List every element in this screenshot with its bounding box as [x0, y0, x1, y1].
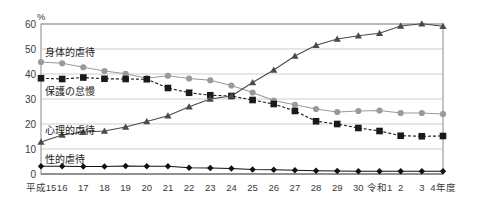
- y-axis-tick-label: 0: [30, 169, 36, 180]
- data-point: [228, 165, 234, 171]
- data-point: [59, 76, 66, 83]
- series-label: 身体的虐待: [45, 46, 95, 58]
- x-axis-tick-label: 21: [163, 182, 174, 193]
- data-point: [249, 97, 256, 104]
- series-label: 保護の怠慢: [45, 85, 95, 97]
- data-point: [80, 74, 87, 81]
- x-axis-tick-label: 16: [57, 182, 68, 193]
- data-point: [271, 167, 277, 173]
- data-point: [228, 82, 234, 88]
- y-axis-tick-label: 30: [25, 94, 37, 105]
- data-point: [292, 102, 298, 108]
- data-point: [38, 163, 44, 169]
- x-axis-tick-label: 4年度: [430, 182, 455, 193]
- data-point: [143, 76, 150, 83]
- data-point: [207, 77, 213, 83]
- x-axis-tick-label: 平成15: [26, 182, 57, 193]
- series-label: 性的虐待: [45, 153, 85, 165]
- x-axis-tick-label: 24: [226, 182, 237, 193]
- x-axis-tick-label: 20: [142, 182, 153, 193]
- data-point: [165, 73, 171, 79]
- data-point: [440, 133, 447, 140]
- data-point: [270, 66, 277, 72]
- data-point: [376, 168, 382, 174]
- data-point: [101, 163, 107, 169]
- x-axis-tick-label: 29: [332, 182, 343, 193]
- series-line: [41, 78, 443, 137]
- y-axis-tick-labels: 0102030405060: [25, 19, 37, 180]
- data-point: [398, 110, 404, 116]
- data-point: [249, 166, 255, 172]
- data-point: [249, 89, 255, 95]
- data-point: [419, 110, 425, 116]
- data-point: [440, 168, 446, 174]
- x-axis-tick-label: 28: [311, 182, 322, 193]
- series-triangle: [37, 20, 446, 145]
- series-line: [41, 62, 443, 114]
- data-point: [101, 68, 107, 74]
- x-axis-tick-label: 25: [247, 182, 258, 193]
- data-point: [80, 64, 86, 70]
- data-point: [164, 112, 171, 118]
- data-point: [292, 108, 299, 115]
- data-point: [334, 109, 340, 115]
- x-axis-tick-labels: 平成15161718192021222324252627282930令和1234…: [26, 182, 456, 193]
- x-axis-tick-label: 27: [290, 182, 301, 193]
- data-point: [334, 168, 340, 174]
- y-axis-tick-label: 40: [25, 69, 37, 80]
- chart-container: 0102030405060 % 身体的虐待保護の怠慢心理的虐待性的虐待 平成15…: [0, 0, 479, 207]
- data-point: [376, 128, 383, 135]
- data-point: [186, 75, 192, 81]
- x-axis-tick-label: 令和1: [367, 182, 392, 193]
- data-point: [186, 165, 192, 171]
- y-axis-tick-label: 20: [25, 119, 37, 130]
- data-point: [270, 101, 277, 108]
- data-point: [144, 163, 150, 169]
- line-chart-svg: 0102030405060 % 身体的虐待保護の怠慢心理的虐待性的虐待 平成15…: [0, 0, 479, 207]
- x-axis-tick-label: 30: [353, 182, 364, 193]
- y-axis-unit-label: %: [37, 11, 46, 22]
- x-axis-tick-label: 3: [419, 182, 424, 193]
- y-axis-tick-label: 60: [25, 19, 37, 30]
- x-axis-tick-label: 19: [120, 182, 131, 193]
- data-point: [376, 107, 382, 113]
- data-point: [292, 167, 298, 173]
- data-point: [397, 168, 403, 174]
- data-point: [291, 52, 298, 58]
- data-point: [59, 60, 65, 66]
- y-axis-tick-label: 50: [25, 44, 37, 55]
- data-point: [355, 168, 361, 174]
- data-point: [397, 132, 404, 139]
- data-point: [186, 89, 193, 96]
- data-point: [419, 133, 426, 140]
- data-point: [334, 121, 341, 128]
- data-point: [355, 125, 362, 132]
- x-axis-tick-label: 23: [205, 182, 216, 193]
- data-point: [313, 118, 320, 125]
- data-point: [207, 165, 213, 171]
- x-axis-tick-label: 18: [99, 182, 110, 193]
- data-point: [440, 111, 446, 117]
- data-point: [418, 20, 425, 26]
- x-axis-tick-label: 17: [78, 182, 89, 193]
- series-label: 心理的虐待: [45, 124, 95, 136]
- series-line: [41, 166, 443, 171]
- data-point: [38, 75, 45, 82]
- data-point: [165, 85, 172, 92]
- data-point: [313, 168, 319, 174]
- data-point: [165, 163, 171, 169]
- data-point: [122, 163, 128, 169]
- series-layer: [37, 20, 446, 174]
- series-inline-labels: 身体的虐待保護の怠慢心理的虐待性的虐待: [45, 46, 95, 165]
- series-square: [38, 74, 447, 139]
- x-axis-tick-label: 26: [268, 182, 279, 193]
- data-point: [101, 75, 108, 82]
- gridlines-group: [41, 24, 443, 174]
- data-point: [313, 106, 319, 112]
- x-axis-tick-label: 22: [184, 182, 195, 193]
- data-point: [249, 79, 256, 85]
- data-point: [419, 168, 425, 174]
- data-point: [122, 76, 129, 83]
- series-diamond: [38, 163, 446, 175]
- x-axis-tick-label: 2: [398, 182, 403, 193]
